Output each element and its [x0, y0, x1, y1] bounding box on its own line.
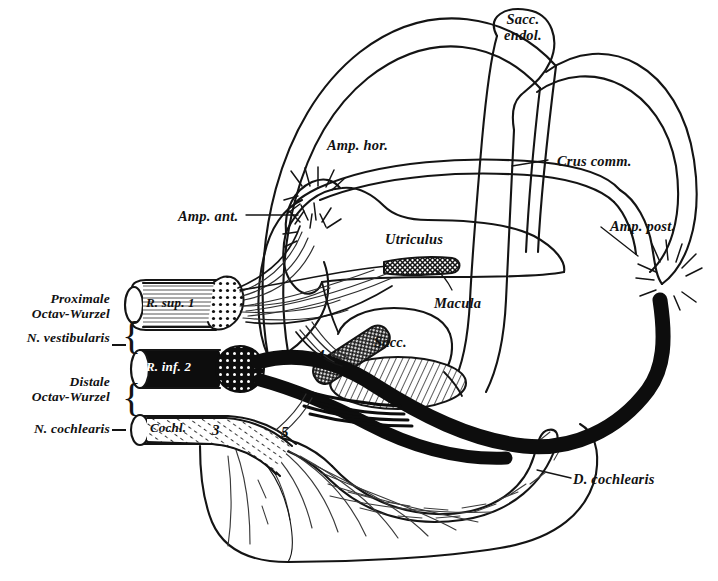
label-distale-line1: Distale	[0, 375, 110, 390]
ampulla-posterior	[614, 190, 662, 284]
crus-commune	[526, 66, 556, 252]
label-sacc-endol: Sacc. endol.	[504, 12, 542, 43]
label-r-sup: R. sup. 1	[146, 296, 195, 310]
label-amp-hor: Amp. hor.	[327, 138, 388, 154]
crista-posterior	[636, 240, 702, 312]
label-distale-line2: Octav-Wurzel	[0, 390, 110, 405]
brace-cochlearis: {	[122, 378, 141, 418]
marker-5: 5	[281, 424, 289, 440]
label-n-vestibularis: N. vestibularis	[0, 331, 110, 346]
label-r-inf: R. inf. 2	[146, 360, 191, 374]
label-cochl: Cochl.	[150, 421, 186, 435]
labyrinth-figure: Sacc. endol. Amp. hor. Crus comm. Amp. a…	[0, 0, 718, 581]
label-amp-post: Amp. post.	[610, 219, 675, 235]
endolymphatic-duct	[452, 9, 554, 392]
label-n-cochlearis: N. cochlearis	[0, 422, 110, 437]
label-sacc: Sacc.	[374, 335, 407, 351]
label-d-cochlearis: D. cochlearis	[573, 472, 655, 488]
label-amp-ant: Amp. ant.	[178, 209, 238, 225]
marker-3: 3	[212, 422, 220, 438]
label-n-vestibularis-text: N. vestibularis	[0, 331, 110, 346]
label-proximale-line1: Proximale	[0, 292, 110, 307]
brace-vestibularis: {	[122, 316, 141, 356]
connector-cochlearis	[112, 429, 126, 431]
marker-4: 4	[317, 347, 325, 363]
label-crus-comm: Crus comm.	[557, 154, 632, 170]
label-distale-octav-wurzel: Distale Octav-Wurzel	[0, 375, 110, 404]
macula-utriculi	[384, 257, 460, 275]
label-n-cochlearis-text: N. cochlearis	[0, 422, 110, 437]
label-proximale-octav-wurzel: Proximale Octav-Wurzel	[0, 292, 110, 321]
label-proximale-line2: Octav-Wurzel	[0, 307, 110, 322]
label-utriculus: Utriculus	[385, 232, 443, 248]
label-macula: Macula	[434, 296, 481, 312]
